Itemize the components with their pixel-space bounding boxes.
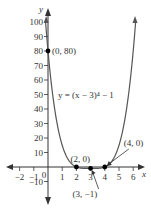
- data-point: [46, 49, 51, 54]
- x-tick-label: 1: [60, 172, 65, 182]
- y-axis-down-arrow-icon: [45, 197, 51, 205]
- y-tick-label: 50: [34, 90, 44, 100]
- y-tick-label: 80: [34, 46, 44, 56]
- y-tick-label: 40: [34, 104, 44, 114]
- x-tick-label: 4: [103, 172, 108, 182]
- y-tick-label: 20: [34, 133, 44, 143]
- x-axis-label: x: [141, 169, 146, 179]
- curve-right-arrow-icon: [133, 16, 138, 23]
- y-axis-up-arrow-icon: [45, 8, 51, 16]
- y-tick-label: 10: [34, 148, 44, 158]
- y-tick-label: 70: [34, 61, 44, 71]
- equation-label: y = (x − 3)⁴ − 1: [58, 90, 114, 100]
- y-tick-label: −10: [29, 177, 44, 187]
- x-tick-label: 5: [117, 172, 122, 182]
- x-tick-label: −2: [15, 172, 25, 182]
- point-label: (0, 80): [52, 46, 76, 56]
- y-tick-label: 100: [30, 17, 44, 27]
- data-point: [88, 166, 93, 171]
- y-axis-label: y: [38, 4, 43, 14]
- point-label: (3, −1): [73, 189, 98, 199]
- y-tick-label: 90: [34, 32, 44, 42]
- leader-line: [109, 149, 129, 164]
- x-tick-label: 6: [131, 172, 136, 182]
- data-point: [102, 165, 107, 170]
- x-axis-left-arrow-icon: [6, 164, 13, 170]
- x-tick-label: 2: [74, 172, 79, 182]
- point-label: (4, 0): [124, 138, 144, 148]
- y-tick-label: 30: [34, 119, 44, 129]
- leader-line: [93, 172, 99, 189]
- y-tick-label: 60: [34, 75, 44, 85]
- data-point: [74, 165, 79, 170]
- point-label: (2, 0): [70, 154, 90, 164]
- function-graph: xy−2−11234560−10102030405060708090100y =…: [0, 0, 151, 208]
